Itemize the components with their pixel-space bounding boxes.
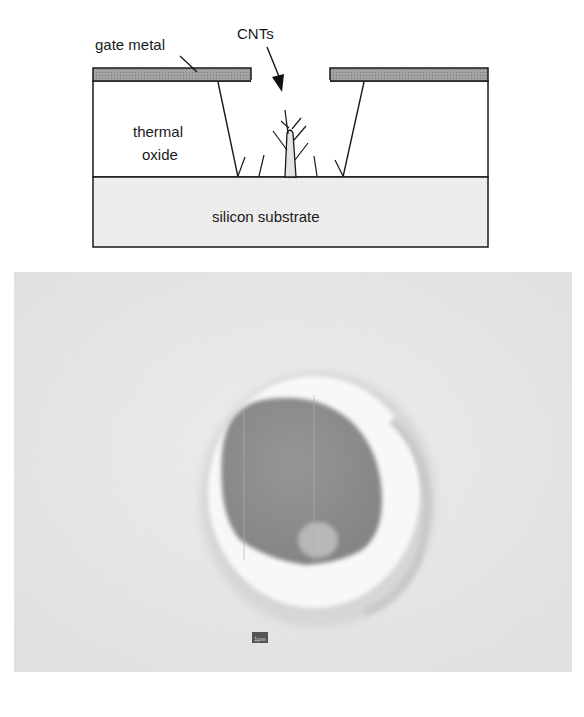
gate-metal-right bbox=[330, 68, 488, 81]
sem-micrograph: 1μm bbox=[0, 260, 584, 717]
gate-metal-left bbox=[93, 68, 251, 81]
cnts-label: CNTs bbox=[237, 25, 274, 42]
scale-bar-label: 1μm bbox=[254, 636, 266, 642]
silicon-substrate-label: silicon substrate bbox=[212, 208, 320, 225]
oxide-label: oxide bbox=[142, 146, 178, 163]
gate-metal-label: gate metal bbox=[95, 36, 165, 53]
device-cross-section-schematic: gate metal CNTs thermal oxide silicon su… bbox=[0, 0, 584, 260]
cnt-bundle bbox=[298, 522, 338, 558]
thermal-label: thermal bbox=[133, 123, 183, 140]
